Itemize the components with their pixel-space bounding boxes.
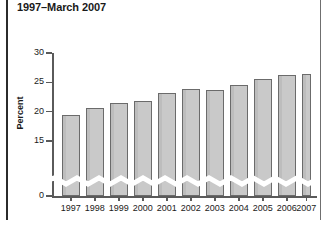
- x-axis-tick: [166, 197, 168, 201]
- y-axis-tick-label: 25: [4, 76, 44, 86]
- x-axis-tick: [306, 197, 308, 201]
- bar: [182, 89, 200, 196]
- y-axis-tick: [46, 82, 52, 84]
- x-axis-tick: [190, 197, 192, 201]
- bar-shading: [255, 80, 258, 195]
- x-axis-tick: [94, 197, 96, 201]
- bar: [62, 115, 80, 196]
- bar: [278, 75, 296, 196]
- bar-shading: [159, 94, 162, 195]
- bar-shading: [231, 86, 234, 195]
- bar-shading: [63, 116, 66, 195]
- bar: [302, 74, 311, 196]
- bar: [230, 85, 248, 196]
- bar: [206, 90, 224, 196]
- x-axis-tick: [214, 197, 216, 201]
- bar-shading: [183, 90, 186, 195]
- y-axis-tick: [46, 111, 52, 113]
- x-axis-tick: [238, 197, 240, 201]
- bar: [110, 103, 128, 196]
- bar: [86, 108, 104, 196]
- bar: [254, 79, 272, 196]
- bar-shading: [135, 102, 138, 195]
- y-axis-tick-label: 30: [4, 47, 44, 57]
- chart-figure: 1997–March 2007 Percent 015202530 199719…: [0, 0, 328, 226]
- bar-shading: [87, 109, 90, 195]
- x-axis-tick: [118, 197, 120, 201]
- y-axis-tick: [46, 140, 52, 142]
- bar: [158, 93, 176, 196]
- bar-shading: [303, 75, 306, 195]
- y-axis-tick-label: 15: [4, 135, 44, 145]
- x-axis-tick: [142, 197, 144, 201]
- y-axis-tick-label: 0: [4, 190, 44, 200]
- plot-area: Percent 015202530 1997199819992000200120…: [0, 0, 328, 226]
- bar-shading: [207, 91, 210, 195]
- y-axis-tick-label: 20: [4, 106, 44, 116]
- y-axis-tick: [46, 195, 52, 197]
- x-axis-tick-label: 2007: [289, 203, 323, 213]
- bar-shading: [111, 104, 114, 195]
- bar: [134, 101, 152, 196]
- bar-shading: [279, 76, 282, 195]
- y-axis-tick: [46, 52, 52, 54]
- y-axis-line: [52, 53, 54, 197]
- x-axis-tick: [70, 197, 72, 201]
- x-axis-tick: [286, 197, 288, 201]
- x-axis-tick: [262, 197, 264, 201]
- x-axis-line: [52, 196, 317, 198]
